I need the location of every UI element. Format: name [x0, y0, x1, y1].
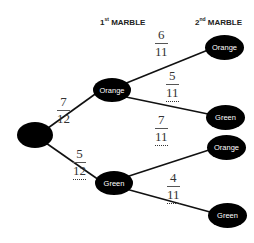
- numerator: 7: [158, 113, 165, 126]
- numerator: 5: [76, 147, 83, 160]
- prob-root-orange: 7 12: [57, 95, 70, 125]
- numerator: 5: [169, 69, 176, 82]
- green-green-node: Green: [208, 203, 247, 228]
- header-label: MARBLE: [206, 18, 242, 27]
- prob-green-orange: 7 11: [155, 113, 168, 146]
- dotted-underline: [166, 100, 179, 102]
- green-orange-node: Orange: [207, 135, 246, 160]
- denominator: 11: [166, 86, 179, 99]
- orange-orange-node: Orange: [205, 35, 244, 60]
- numerator: 6: [158, 28, 165, 41]
- prob-green-green: 4 11: [167, 171, 180, 204]
- prob-orange-green: 5 11: [166, 69, 179, 102]
- numerator: 4: [170, 171, 177, 184]
- prob-orange-orange: 6 11: [155, 28, 168, 58]
- first-green-node: Green: [95, 171, 133, 195]
- first-marble-header: 1st MARBLE: [100, 16, 145, 27]
- root-node: [17, 122, 53, 148]
- dotted-underline: [73, 178, 86, 180]
- orange-green-node: Green: [206, 105, 245, 130]
- denominator: 12: [57, 112, 70, 125]
- denominator: 11: [155, 45, 168, 58]
- denominator: 11: [167, 188, 180, 201]
- dotted-underline: [155, 144, 168, 146]
- prob-root-green: 5 12: [73, 147, 86, 180]
- header-label: MARBLE: [109, 18, 145, 27]
- numerator: 7: [60, 95, 67, 108]
- dotted-underline: [167, 202, 180, 204]
- denominator: 12: [73, 164, 86, 177]
- denominator: 11: [155, 130, 168, 143]
- second-marble-header: 2nd MARBLE: [195, 16, 242, 27]
- first-orange-node: Orange: [93, 78, 131, 102]
